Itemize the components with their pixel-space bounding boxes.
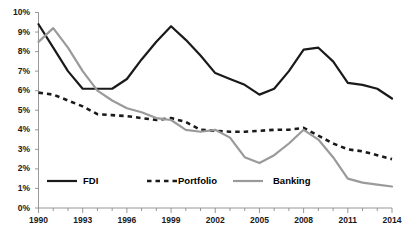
legend-label-banking: Banking xyxy=(273,176,310,186)
x-axis-tick-label: 2005 xyxy=(241,216,277,225)
y-axis-tick-label: 8% xyxy=(2,47,30,56)
y-axis-tick-label: 3% xyxy=(2,145,30,154)
x-axis-tick-label: 2011 xyxy=(330,216,366,225)
x-axis-tick-label: 1996 xyxy=(109,216,145,225)
x-axis-tick-label: 2014 xyxy=(374,216,407,225)
y-axis-tick-label: 7% xyxy=(2,67,30,76)
series-line-fdi xyxy=(39,24,393,98)
x-axis-tick-label: 2002 xyxy=(197,216,233,225)
x-axis-tick-label: 1999 xyxy=(153,216,189,225)
y-axis-tick-label: 0% xyxy=(2,204,30,213)
y-axis-tick-label: 1% xyxy=(2,184,30,193)
x-axis-tick-label: 1993 xyxy=(65,216,101,225)
y-axis-tick-label: 6% xyxy=(2,86,30,95)
series-line-portfolio xyxy=(39,93,393,159)
y-axis-tick-label: 10% xyxy=(2,8,30,17)
x-axis-tick-label: 1990 xyxy=(21,216,57,225)
legend-label-portfolio: Portfolio xyxy=(178,176,217,186)
y-axis-tick-label: 2% xyxy=(2,164,30,173)
x-axis-tick-label: 2008 xyxy=(286,216,322,225)
y-axis-tick-label: 4% xyxy=(2,125,30,134)
y-axis-tick-label: 5% xyxy=(2,106,30,115)
y-axis-tick-label: 9% xyxy=(2,28,30,37)
legend-label-fdi: FDI xyxy=(83,176,98,186)
series-line-banking xyxy=(39,28,393,186)
